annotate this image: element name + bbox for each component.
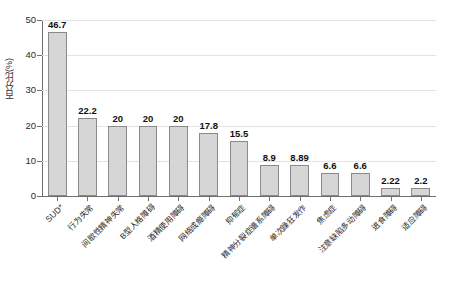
bar [169, 126, 188, 196]
x-tick-mark [269, 197, 270, 201]
y-tick-label-wrap: 0 [8, 191, 36, 201]
category-label: 抑郁症 [224, 203, 247, 226]
y-tick-label-wrap: 40 [8, 50, 36, 60]
category-label: 进食障碍 [370, 203, 399, 232]
x-tick-mark [360, 197, 361, 201]
y-tick-label-wrap: 30 [8, 85, 36, 95]
bar [321, 173, 340, 196]
bar [199, 133, 218, 196]
bar [260, 165, 279, 196]
bar [78, 118, 97, 196]
bar-value-label: 46.7 [33, 19, 81, 30]
x-tick-mark [118, 197, 119, 201]
category-label: SUD* [44, 203, 65, 224]
x-tick-mark [300, 197, 301, 201]
y-tick-label: 20 [14, 121, 36, 131]
category-label: 行为失常 [67, 203, 96, 232]
category-label: 适应障碍 [400, 203, 429, 232]
bar-value-label: 6.6 [336, 160, 384, 171]
x-tick-mark [57, 197, 58, 201]
bar [108, 126, 127, 196]
x-tick-mark [209, 197, 210, 201]
bar-value-label: 15.5 [215, 128, 263, 139]
y-tick-mark [37, 196, 42, 197]
y-tick-label: 30 [14, 85, 36, 95]
x-tick-mark [391, 197, 392, 201]
category-label: 精神分裂症谱系障碍 [220, 203, 277, 260]
x-tick-mark [421, 197, 422, 201]
category-label: 焦虑症 [315, 203, 338, 226]
bar [230, 141, 249, 196]
y-tick-label-wrap: 50 [8, 15, 36, 25]
y-tick-label: 10 [14, 156, 36, 166]
bar [411, 188, 430, 196]
y-tick-label: 40 [14, 50, 36, 60]
y-tick-label-wrap: 20 [8, 121, 36, 131]
bar-value-label: 2.2 [397, 175, 445, 186]
x-tick-mark [87, 197, 88, 201]
y-tick-label: 0 [14, 191, 36, 201]
x-tick-mark [330, 197, 331, 201]
x-tick-mark [148, 197, 149, 201]
bar [381, 188, 400, 196]
x-tick-mark [178, 197, 179, 201]
bar-chart: 百分比(%) 01020304050 46.722.220202017.815.… [0, 0, 452, 291]
x-tick-mark [239, 197, 240, 201]
y-tick-label-wrap: 10 [8, 156, 36, 166]
bar [139, 126, 158, 196]
